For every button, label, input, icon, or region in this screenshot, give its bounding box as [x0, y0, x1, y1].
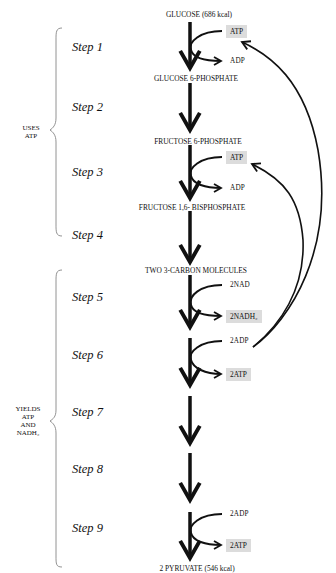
- step-1: Step 1: [72, 40, 103, 55]
- adp-output-step3: ADP: [230, 184, 245, 192]
- f16bp-label: FRUCTOSE 1,6- BISPHOSPHATE: [139, 203, 245, 212]
- atp-input-step1: ATP: [226, 25, 247, 38]
- step-9: Step 9: [72, 521, 103, 536]
- atp-input-step3: ATP: [226, 151, 247, 164]
- step-2: Step 2: [72, 100, 103, 115]
- uses-atp-label: USES ATP: [16, 124, 46, 140]
- f6p-label: FRUCTOSE 6-PHOSPHATE: [154, 137, 242, 146]
- nadh2-output-step5: 2NADH₂: [226, 310, 262, 323]
- step-6: Step 6: [72, 348, 103, 363]
- atp-output-step6: 2ATP: [226, 368, 251, 381]
- atp-output-step9: 2ATP: [226, 539, 251, 552]
- yields-label: YIELDS ATP AND NADH₂: [8, 405, 48, 437]
- pathway-arrows: [0, 0, 336, 573]
- adp-output-step1: ADP: [230, 57, 245, 65]
- nad-input-step5: 2NAD: [230, 281, 250, 289]
- glucose-label: GLUCOSE (686 kcal): [166, 10, 232, 19]
- step-5: Step 5: [72, 290, 103, 305]
- adp-input-step9: 2ADP: [230, 510, 249, 518]
- step-8: Step 8: [72, 462, 103, 477]
- pyruvate-label: 2 PYRUVATE (546 kcal): [159, 564, 234, 573]
- three-carbon-label: TWO 3-CARBON MOLECULES: [145, 266, 247, 275]
- step-4: Step 4: [72, 228, 103, 243]
- g6p-label: GLUCOSE 6-PHOSPHATE: [154, 74, 238, 83]
- adp-input-step6: 2ADP: [230, 337, 249, 345]
- step-3: Step 3: [72, 165, 103, 180]
- step-7: Step 7: [72, 405, 103, 420]
